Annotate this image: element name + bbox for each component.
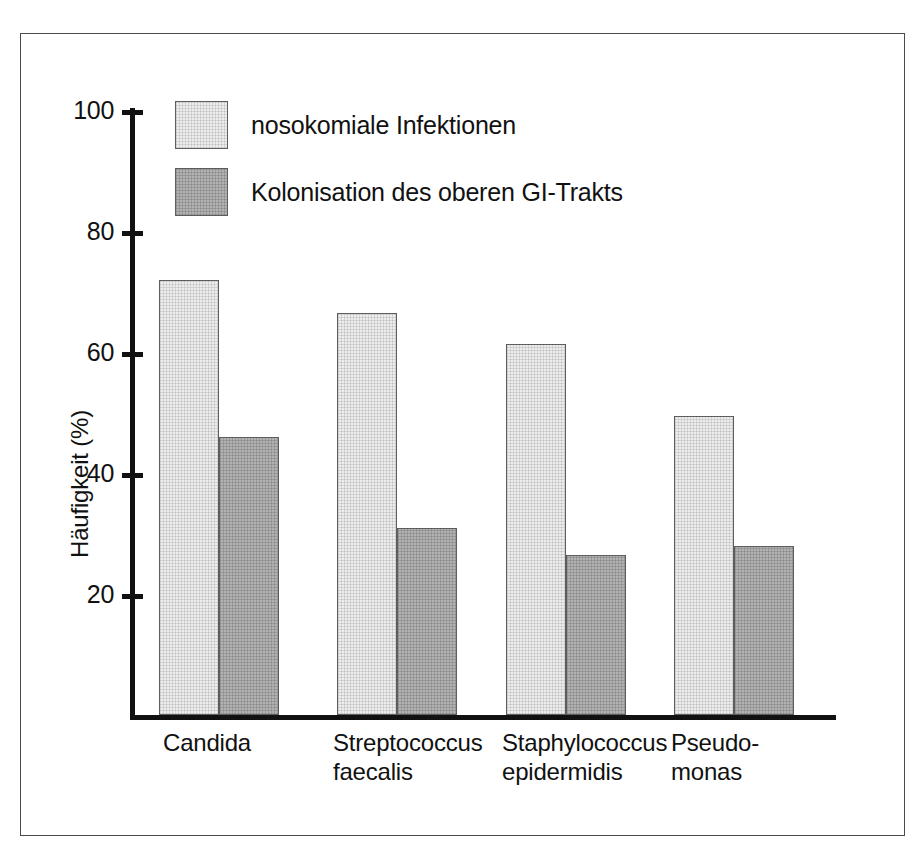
legend-label-kolonisation: Kolonisation des oberen GI-Trakts <box>251 178 623 207</box>
y-tick-mark-20 <box>122 594 143 599</box>
x-category-label-streptococcus-faecalis: Streptococcus faecalis <box>333 728 482 786</box>
y-axis-title: Häufigkeit (%) <box>66 364 94 604</box>
y-tick-label-80: 80 <box>58 217 114 246</box>
bar-streptococcus-faecalis-kolonisation <box>397 528 457 715</box>
x-category-label-candida: Candida <box>163 728 251 757</box>
y-tick-label-60: 60 <box>58 338 114 367</box>
plot-area: 100 80 60 40 20 Häufigkeit (%) Candida <box>0 0 922 862</box>
x-axis-line <box>130 715 836 720</box>
y-tick-mark-80 <box>122 231 143 236</box>
legend-label-nosokomiale: nosokomiale Infektionen <box>251 111 516 140</box>
bar-candida-kolonisation <box>219 437 279 715</box>
y-tick-label-100: 100 <box>58 96 114 125</box>
x-category-label-staphylococcus-epidermidis: Staphylococcus epidermidis <box>502 728 667 786</box>
bar-candida-nosokomiale <box>159 280 219 715</box>
y-tick-mark-40 <box>122 473 143 478</box>
y-tick-mark-60 <box>122 352 143 357</box>
bar-staphylococcus-epidermidis-nosokomiale <box>506 344 566 715</box>
bar-pseudomonas-kolonisation <box>734 546 794 715</box>
x-category-label-pseudomonas: Pseudo- monas <box>671 728 759 786</box>
bar-streptococcus-faecalis-nosokomiale <box>337 313 397 715</box>
bar-pseudomonas-nosokomiale <box>674 416 734 715</box>
legend-swatch-nosokomiale <box>175 101 228 149</box>
figure-canvas: 100 80 60 40 20 Häufigkeit (%) Candida <box>0 0 922 862</box>
bar-staphylococcus-epidermidis-kolonisation <box>566 555 626 715</box>
y-tick-mark-100 <box>122 110 143 115</box>
y-axis-line <box>130 108 135 719</box>
legend-swatch-kolonisation <box>175 168 228 216</box>
